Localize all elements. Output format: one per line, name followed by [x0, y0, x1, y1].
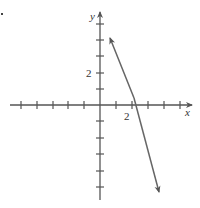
x-tick-label-2: 2 [124, 110, 130, 122]
y-tick-label-2: 2 [86, 67, 92, 79]
plotted-line-lower-arrow [134, 98, 159, 192]
coordinate-plane: y x 2 2 [0, 0, 200, 208]
x-axis-label: x [184, 106, 190, 118]
y-axis-label: y [89, 10, 95, 22]
plotted-line-upper-arrow [110, 38, 134, 98]
